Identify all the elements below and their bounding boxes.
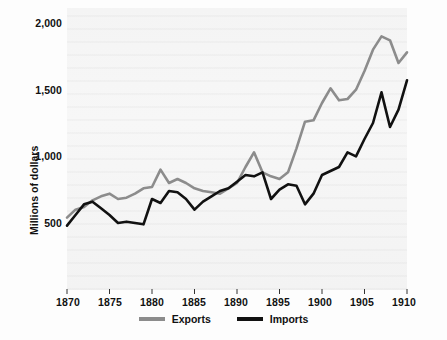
- x-tick-label-1900: 1900: [300, 296, 340, 308]
- x-tick-label-1890: 1890: [216, 296, 256, 308]
- x-tick-label-1905: 1905: [342, 296, 382, 308]
- chart-legend: Exports Imports: [0, 313, 447, 325]
- series-line-imports: [67, 80, 407, 225]
- x-tick-label-1870: 1870: [48, 296, 88, 308]
- legend-swatch-imports-icon: [237, 317, 263, 321]
- legend-label-imports: Imports: [270, 313, 309, 325]
- y-tick-label-2000: 2,000: [22, 17, 62, 29]
- x-tick-label-1885: 1885: [174, 296, 214, 308]
- y-tick-label-1500: 1,500: [22, 84, 62, 96]
- x-tick-label-1880: 1880: [132, 296, 172, 308]
- x-tick-label-1910: 1910: [384, 296, 424, 308]
- legend-label-exports: Exports: [172, 313, 211, 325]
- x-tick-label-1875: 1875: [90, 296, 130, 308]
- legend-item-imports: Imports: [237, 313, 309, 325]
- chart-figure: Millions of dollars 2,000 1,500 1,000 50…: [0, 0, 447, 340]
- line-chart-plot: [0, 0, 447, 340]
- y-tick-label-500: 500: [22, 217, 62, 229]
- y-tick-label-1000: 1,000: [22, 150, 62, 162]
- legend-swatch-exports-icon: [139, 317, 165, 321]
- series-line-exports: [67, 36, 407, 217]
- legend-item-exports: Exports: [139, 313, 211, 325]
- x-tick-label-1895: 1895: [258, 296, 298, 308]
